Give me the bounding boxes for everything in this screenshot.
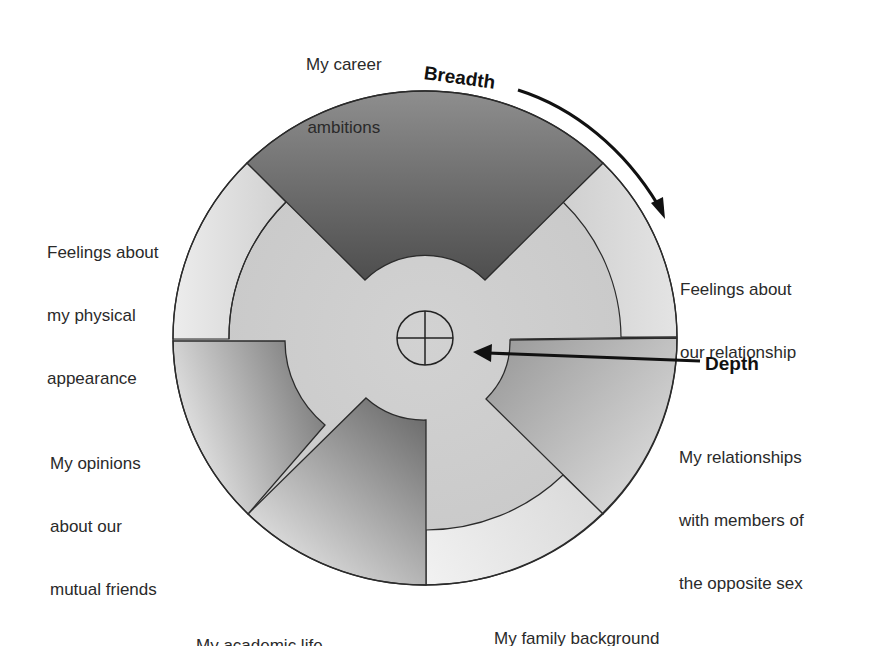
label-appearance: Feelings about my physical appearance [47,200,159,410]
label-career: My career ambitions [306,12,382,159]
label-family: My family background and problems [494,586,659,646]
label-academic: My academic life [196,593,323,646]
core-crosshair-icon [397,311,453,365]
label-opposite-sex: My relationships with members of the opp… [679,405,804,615]
depth-label: Depth [705,353,759,375]
label-friends: My opinions about our mutual friends [50,411,157,621]
